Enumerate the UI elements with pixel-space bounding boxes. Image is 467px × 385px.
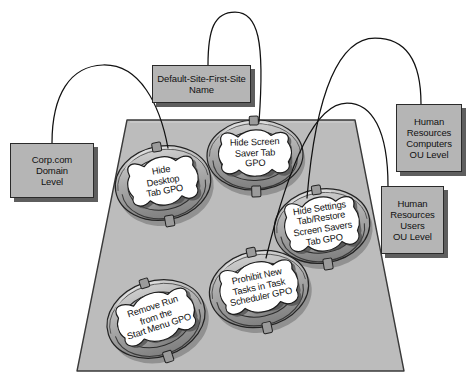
callout-boxes: Corp.com Domain LevelDefault-Site-First-… xyxy=(0,0,467,385)
hr-computers-ou-level-label: Human Resources Computers OU Level xyxy=(406,116,452,161)
default-site-first-site-name-label: Default-Site-First-Site Name xyxy=(157,73,246,95)
gpo-diagram: Hide Desktop Tab GPOHide Screen Saver Ta… xyxy=(0,0,467,385)
default-site-first-site-name-box[interactable]: Default-Site-First-Site Name xyxy=(152,65,251,103)
hr-computers-ou-level-box[interactable]: Human Resources Computers OU Level xyxy=(396,104,462,172)
hr-users-ou-level-box[interactable]: Human Resources Users OU Level xyxy=(381,186,444,254)
corp-domain-level-label: Corp.com Domain Level xyxy=(32,154,72,188)
hr-users-ou-level-label: Human Resources Users OU Level xyxy=(390,198,435,243)
corp-domain-level-box[interactable]: Corp.com Domain Level xyxy=(10,143,94,198)
